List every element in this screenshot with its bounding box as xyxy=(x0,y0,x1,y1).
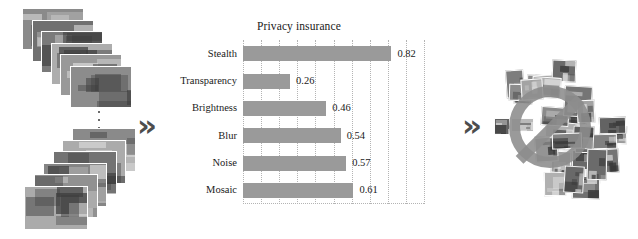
collage-photo xyxy=(592,134,617,149)
chart-value-label: 0.61 xyxy=(359,182,377,197)
chart-bar-row: Brightness0.46 xyxy=(243,98,424,118)
chart-bar xyxy=(243,128,341,143)
chart-value-label: 0.54 xyxy=(347,128,365,143)
collage-photo xyxy=(598,117,625,134)
chart-value-label: 0.26 xyxy=(296,73,314,88)
chart-bar-row: Noise0.57 xyxy=(243,153,424,173)
chart-bar-row: Stealth0.82 xyxy=(243,44,424,64)
chart-bar xyxy=(243,183,353,198)
chart-title: Privacy insurance xyxy=(170,20,428,32)
privacy-insurance-chart: Privacy insurance Stealth0.82Transparenc… xyxy=(170,20,445,210)
chart-value-label: 0.57 xyxy=(352,155,370,170)
collage-photo xyxy=(587,149,608,180)
stack-photo xyxy=(24,186,88,230)
protected-image-collage xyxy=(487,58,627,203)
chart-category-label: Transparency xyxy=(180,73,237,88)
chart-bar xyxy=(243,156,346,171)
chart-bar-row: Blur0.54 xyxy=(243,126,424,146)
chart-value-label: 0.82 xyxy=(397,46,415,61)
chart-bar xyxy=(243,101,326,116)
chart-bar xyxy=(243,46,391,61)
chart-value-label: 0.46 xyxy=(332,100,350,115)
privacy-pipeline-figure: » Privacy insurance Stealth0.82Transpare… xyxy=(0,0,638,239)
chart-category-label: Blur xyxy=(218,128,237,143)
chart-category-label: Brightness xyxy=(192,100,237,115)
chart-category-label: Stealth xyxy=(208,46,237,61)
chart-bar-row: Transparency0.26 xyxy=(243,71,424,91)
stack-photo xyxy=(70,66,132,108)
collage-photo xyxy=(563,166,585,194)
chart-gridline xyxy=(424,40,425,204)
chart-bar-row: Mosaic0.61 xyxy=(243,180,424,200)
chart-category-label: Noise xyxy=(213,155,238,170)
chart-plot-area: Stealth0.82Transparency0.26Brightness0.4… xyxy=(243,40,424,204)
chart-bar xyxy=(243,74,290,89)
chart-category-label: Mosaic xyxy=(206,182,237,197)
flow-arrow-icon-1: » xyxy=(137,110,152,141)
flow-arrow-icon-2: » xyxy=(462,110,477,141)
